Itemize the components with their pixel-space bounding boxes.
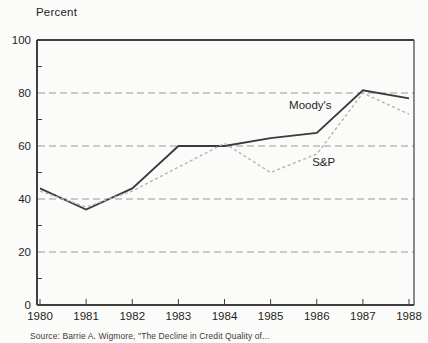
x-axis-label: 1982	[119, 310, 145, 322]
source-note: Source: Barrie A. Wigmore, "The Decline …	[30, 331, 269, 341]
moodys-line	[40, 90, 409, 209]
y-axis-label: 20	[18, 246, 31, 258]
y-axis-label: 80	[18, 87, 31, 99]
x-axis-label: 1981	[73, 310, 99, 322]
x-axis-label: 1988	[396, 310, 422, 322]
x-axis-label: 1985	[258, 310, 284, 322]
x-axis-label: 1986	[304, 310, 330, 322]
y-axis-label: 60	[18, 140, 31, 152]
x-axis-label: 1984	[212, 310, 238, 322]
series-label-moodys: Moody's	[289, 99, 332, 111]
credit-quality-line-chart: 0204060801001980198119821983198419851986…	[0, 0, 428, 343]
y-axis-label: 100	[12, 34, 31, 46]
sp-line	[40, 93, 409, 207]
y-axis-label: 40	[18, 193, 31, 205]
x-axis-label: 1980	[27, 310, 53, 322]
series-label-sp: S&P	[312, 156, 335, 168]
x-axis-label: 1983	[166, 310, 192, 322]
scanned-line-chart-figure: Percent 02040608010019801981198219831984…	[0, 0, 428, 343]
x-axis-label: 1987	[350, 310, 376, 322]
